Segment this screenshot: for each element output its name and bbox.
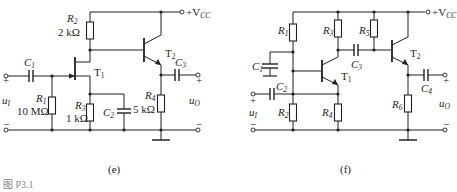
svg-text:R3: R3: [74, 99, 86, 113]
svg-text:+: +: [443, 74, 449, 86]
svg-text:C1: C1: [252, 60, 263, 74]
svg-text:5 kΩ: 5 kΩ: [133, 103, 155, 115]
svg-text:uO: uO: [189, 94, 201, 108]
label-r2: R2: [66, 12, 78, 26]
svg-text:+VCC: +VCC: [186, 6, 211, 20]
svg-text:10 MΩ: 10 MΩ: [17, 105, 49, 117]
svg-text:C3: C3: [175, 56, 186, 70]
svg-text:R3: R3: [322, 24, 334, 38]
svg-text:1 kΩ: 1 kΩ: [66, 112, 88, 124]
resistor-r2: [87, 22, 94, 39]
resistor-r1: [290, 24, 297, 41]
svg-text:uO: uO: [439, 97, 451, 111]
svg-text:R6: R6: [391, 98, 403, 112]
svg-text:+: +: [3, 74, 9, 86]
resistor-r1: [49, 97, 56, 114]
svg-text:R1: R1: [35, 92, 46, 106]
svg-text:+VCC: +VCC: [432, 6, 457, 20]
svg-text:C4: C4: [421, 82, 432, 96]
svg-text:+: +: [196, 74, 202, 86]
resistor-r6: [405, 95, 412, 112]
subfigure-label-f: (f): [340, 163, 351, 175]
svg-text:C2: C2: [276, 80, 287, 94]
resistor-r4: [335, 104, 342, 121]
circuit-f: +VCC R1 R3 R5 C1 C3 T1 T2 C2 C4 + uI − R…: [249, 6, 457, 140]
svg-text:+: +: [250, 94, 256, 106]
svg-text:−: −: [443, 118, 449, 130]
svg-text:R1: R1: [277, 24, 288, 38]
svg-text:R2: R2: [277, 106, 289, 120]
svg-text:−: −: [250, 118, 256, 130]
resistor-r4: [158, 95, 165, 112]
svg-text:C2: C2: [103, 106, 114, 120]
subfigure-label-e: (e): [108, 163, 120, 175]
svg-text:−: −: [196, 118, 202, 130]
figure-caption: 图 P3.1: [3, 176, 34, 191]
svg-text:C1: C1: [24, 56, 35, 70]
svg-text:R4: R4: [144, 89, 156, 103]
svg-text:C3: C3: [351, 58, 362, 72]
svg-text:T1: T1: [341, 70, 352, 84]
resistor-r2: [290, 104, 297, 121]
svg-text:R5: R5: [358, 24, 370, 38]
resistor-r3: [335, 20, 342, 37]
svg-text:R4: R4: [321, 106, 333, 120]
resistor-r5: [371, 20, 378, 37]
circuit-diagrams: +VCC R2 2 kΩ C1 T1 T2 C3 + uI − R1 10 MΩ…: [0, 0, 457, 192]
svg-text:uI: uI: [2, 94, 11, 108]
svg-text:2 kΩ: 2 kΩ: [58, 26, 80, 38]
svg-text:T1: T1: [94, 66, 105, 80]
svg-text:T2: T2: [410, 47, 421, 61]
circuit-e: +VCC R2 2 kΩ C1 T1 T2 C3 + uI − R1 10 MΩ…: [2, 6, 211, 140]
svg-text:−: −: [3, 118, 9, 130]
